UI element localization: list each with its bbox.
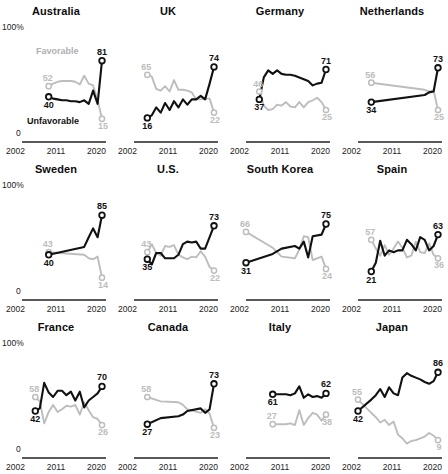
plot-area: 43 22 35 73 [112,178,224,316]
x-tick-label: 2020 [199,304,218,314]
panel-sweden: Sweden 43 14 40 85 200220112020100%0 [0,158,112,316]
x-tick-label: 2020 [87,304,106,314]
favorable-start-marker [243,229,248,234]
favorable-end-value: 22 [210,115,220,125]
unfavorable-end-marker [99,212,105,218]
favorable-start-marker [145,72,150,77]
x-tick-label: 2002 [118,146,137,156]
unfavorable-start-marker [145,256,151,262]
x-tick-label: 2002 [230,304,249,314]
panel-title: France [0,321,112,333]
panel-france: France 58 26 42 70 200220112020100%0 [0,316,112,474]
favorable-end-value: 36 [434,260,444,270]
x-tick-label: 2011 [47,304,65,314]
plot-area: 46 25 37 71 [224,20,336,158]
favorable-start-value: 46 [253,79,263,89]
unfavorable-start-value: 37 [254,102,264,112]
x-tick-label: 2002 [118,304,137,314]
x-tick-label: 2011 [47,146,65,156]
unfavorable-line [358,372,438,411]
x-axis-ticks: 200220112020 [0,146,112,156]
x-tick-label: 2011 [159,462,177,472]
x-tick-label: 2002 [342,146,361,156]
panel-netherlands: Netherlands 56 25 34 73 200220112020 [336,0,448,158]
plot-area: 56 25 34 73 [336,20,448,158]
x-axis-ticks: 200220112020 [336,304,448,314]
unfavorable-start-value: 27 [142,427,152,437]
favorable-start-value: 65 [141,62,151,72]
unfavorable-end-value: 75 [321,210,331,220]
x-tick-label: 2020 [311,304,330,314]
favorable-start-value: 55 [352,387,362,397]
plot-area: 58 23 27 73 [112,336,224,474]
unfavorable-end-marker [211,223,217,229]
favorable-line [259,92,326,111]
x-tick-label: 2020 [87,462,106,472]
plot-area: 57 36 21 63 [336,178,448,316]
favorable-end-value: 9 [436,442,441,452]
unfavorable-start-value: 31 [241,266,251,276]
y-axis-bottom-label: 0 [16,128,21,138]
unfavorable-start-value: 61 [268,397,278,407]
unfavorable-end-marker [323,221,329,227]
x-tick-label: 2002 [342,462,361,472]
x-tick-label: 2011 [383,304,401,314]
favorable-end-value: 15 [98,121,108,131]
panel-uk: UK 65 22 16 74 200220112020 [112,0,224,158]
unfavorable-end-value: 62 [321,379,331,389]
unfavorable-start-marker [270,392,276,398]
unfavorable-end-value: 73 [209,370,219,380]
unfavorable-start-value: 21 [366,275,376,285]
x-tick-label: 2011 [271,304,289,314]
unfavorable-start-marker [243,260,249,266]
x-tick-label: 2002 [6,304,25,314]
unfavorable-start-marker [257,97,263,103]
plot-area: 27 38 61 62 [224,336,336,474]
panel-germany: Germany 46 25 37 71 200220112020 [224,0,336,158]
favorable-end-value: 25 [434,112,444,122]
favorable-end-value: 23 [210,430,220,440]
x-tick-label: 2011 [159,146,177,156]
favorable-line [35,397,102,425]
favorable-end-value: 14 [98,280,108,290]
panel-title: Germany [224,5,336,17]
x-tick-label: 2011 [271,146,289,156]
x-tick-label: 2002 [118,462,137,472]
x-axis-ticks: 200220112020 [224,304,336,314]
favorable-start-marker [145,250,150,255]
x-axis-ticks: 200220112020 [0,462,112,472]
x-tick-label: 2002 [6,462,25,472]
unfavorable-end-value: 85 [97,201,107,211]
panel-title: Australia [0,5,112,17]
favorable-line [358,400,438,444]
unfavorable-end-value: 86 [433,358,443,368]
unfavorable-end-marker [211,381,217,387]
x-tick-label: 2002 [230,462,249,472]
x-tick-label: 2020 [423,146,442,156]
x-tick-label: 2020 [423,462,442,472]
unfavorable-line [259,70,326,100]
unfavorable-line [147,67,214,118]
x-tick-label: 2020 [199,146,218,156]
panel-australia: Australia 52 15 40 81 200220112020100%0F… [0,0,112,158]
favorable-line [246,232,326,269]
panel-spain: Spain 57 36 21 63 200220112020 [336,158,448,316]
x-axis-ticks: 200220112020 [112,304,224,314]
favorable-line [147,75,214,113]
y-axis-top-label: 100% [2,180,24,190]
x-tick-label: 2020 [423,304,442,314]
unfavorable-line [49,215,102,255]
favorable-line [273,410,326,425]
panel-u-s: U.S. 43 22 35 73 200220112020 [112,158,224,316]
x-tick-label: 2011 [271,462,289,472]
small-multiples-grid: Australia 52 15 40 81 200220112020100%0F… [0,0,448,474]
x-tick-label: 2020 [87,146,106,156]
x-tick-label: 2020 [311,146,330,156]
panel-title: Netherlands [336,5,448,17]
favorable-end-value: 24 [322,271,332,281]
favorable-line [371,83,438,110]
unfavorable-end-marker [99,58,105,64]
x-tick-label: 2020 [311,462,330,472]
legend-favorable: Favorable [36,46,79,56]
panel-canada: Canada 58 23 27 73 200220112020 [112,316,224,474]
